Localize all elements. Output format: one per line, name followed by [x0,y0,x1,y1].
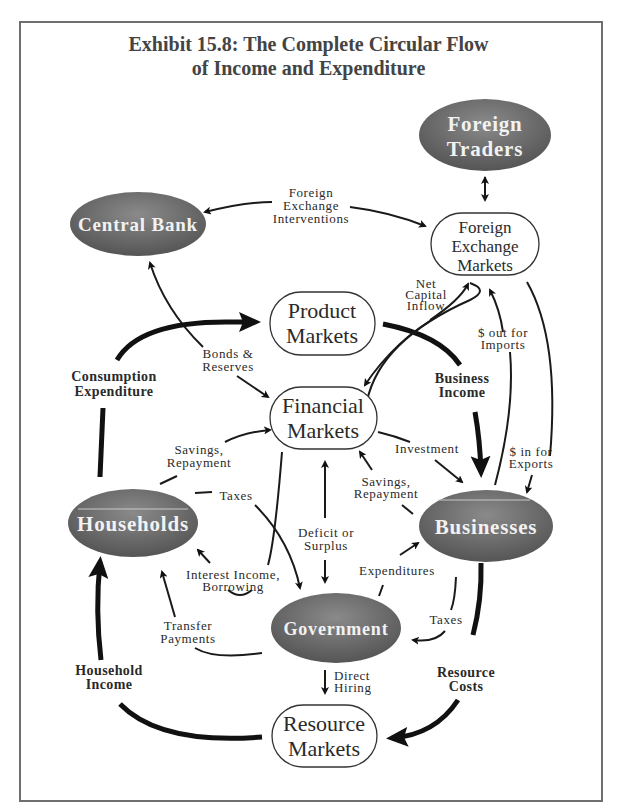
arrow-exports [527,475,532,492]
arrow-expenditures [400,543,418,555]
label-deficit-2: Surplus [304,538,348,553]
line-transfer-payments [195,648,262,656]
arrow-transfer-payments [162,572,175,617]
line-businesses-to-resource-costs [473,563,481,635]
line-expenditures [379,585,383,596]
arrow-business-income [475,412,481,472]
node-central-bank: Central Bank [70,192,206,256]
resource-markets-label-2: Markets [288,736,360,761]
node-foreign-exchange-markets: Foreign Exchange Markets [431,213,539,275]
arrow-to-central-bank [205,202,272,212]
node-households: Households [68,489,198,557]
product-markets-label-1: Product [288,298,356,323]
label-household-income-2: Income [86,677,133,692]
label-consumption-1: Consumption [71,369,156,384]
fx-markets-label-1: Foreign [459,218,512,237]
label-imports-2: Imports [481,337,526,352]
financial-markets-label-2: Markets [287,418,359,443]
label-household-income-1: Household [75,663,142,678]
households-label: Households [77,512,189,536]
label-direct-hiring-2: Hiring [334,680,372,695]
financial-markets-label-1: Financial [282,393,364,418]
label-investment: Investment [395,441,459,456]
line-household-taxes [195,492,212,493]
node-product-markets: Product Markets [270,292,375,355]
label-business-income-1: Business [435,371,490,386]
label-expenditures: Expenditures [359,563,435,578]
label-bonds-2: Reserves [202,359,254,374]
foreign-traders-label-1: Foreign [447,112,522,136]
arrow-household-savings [225,430,270,442]
arrow-household-income [98,562,101,660]
label-business-savings-2: Repayment [354,486,419,501]
label-household-taxes: Taxes [219,488,252,503]
line-household-savings [160,476,177,484]
label-business-income-2: Income [439,385,486,400]
node-foreign-traders: Foreign Traders [419,99,551,171]
line-product-to-business-income [383,324,460,365]
label-net-capital-3: Inflow [407,298,445,313]
line-business-taxes [451,577,456,610]
line-exports [527,282,552,456]
arrow-business-savings [360,452,372,470]
label-business-taxes: Taxes [429,612,462,627]
label-fx-interventions-3: Interventions [273,211,349,226]
label-exports-2: Exports [509,456,554,471]
arrow-reserves-to-financial [237,376,268,397]
label-resource-costs-1: Resource [437,665,495,680]
label-transfer-2: Payments [160,631,215,646]
node-government: Government [271,593,401,663]
foreign-traders-label-2: Traders [447,137,523,161]
label-consumption-2: Expenditure [75,384,154,399]
line-business-savings [402,505,413,514]
product-markets-label-2: Markets [286,323,358,348]
line-interest [268,452,282,565]
arrow-investment [435,460,462,482]
fx-markets-label-2: Exchange [451,237,518,256]
resource-markets-label-1: Resource [283,711,365,736]
arrow-resource-costs [392,700,458,738]
arrow-business-taxes [413,631,445,641]
circular-flow-diagram: Foreign Traders Central Bank Households … [0,0,617,808]
node-financial-markets: Financial Markets [270,387,377,449]
line-households-to-consumption [100,408,103,477]
government-label: Government [284,619,389,639]
line-resource-to-household-income [120,704,262,738]
central-bank-label: Central Bank [78,214,198,235]
label-interest-2: Borrowing [202,579,264,594]
arrow-bonds-to-central-bank [150,263,203,347]
businesses-label: Businesses [435,515,538,539]
arrow-interest-income [198,550,210,563]
label-household-savings-2: Repayment [167,455,232,470]
arrow-to-fx-markets [350,207,425,226]
label-resource-costs-2: Costs [449,679,484,694]
fx-markets-label-3: Markets [457,256,513,275]
node-businesses: Businesses [419,490,553,562]
node-resource-markets: Resource Markets [272,705,377,767]
